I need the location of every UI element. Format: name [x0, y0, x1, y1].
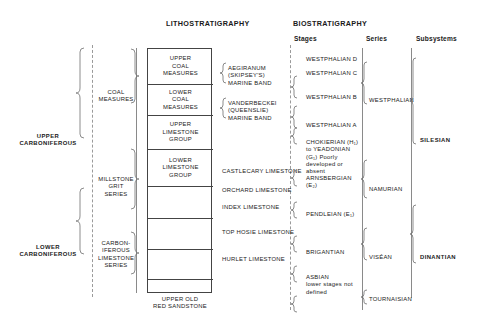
brace-subsystem-silesian [410, 58, 416, 144]
brace-stage-westphalian-a [291, 128, 297, 144]
brace-vanderbeckei [220, 98, 226, 118]
brace-stage-pendleian [291, 202, 297, 218]
brace-aegiranum [220, 63, 226, 83]
brace-stage-westphalian-c [291, 76, 297, 98]
brace-series-tournaisian [361, 290, 367, 304]
brace-lower-carboniferous [76, 188, 84, 254]
stratigraphic-correlation-chart: LITHOSTRATIGRAPHY BIOSTRATIGRAPHY Stages… [0, 0, 483, 331]
brace-coal-measures [131, 49, 139, 103]
brace-carboniferous-limestone [131, 232, 139, 274]
brace-stage-asbian [291, 266, 297, 282]
brace-stage-westphalian-b [291, 106, 297, 128]
brace-upper-carboniferous [76, 48, 84, 138]
brace-series-westphalian [361, 62, 367, 104]
brace-stage-tournaisian-boundary [291, 296, 297, 312]
brace-stage-brigantian [291, 236, 297, 252]
brace-series-namurian [361, 160, 367, 198]
brace-stage-arnsbergian [291, 170, 297, 186]
brace-series-visean [361, 228, 367, 260]
brace-subsystem-dinantian [410, 205, 416, 263]
brace-overlay [0, 0, 483, 331]
brace-millstone-grit [131, 149, 139, 209]
